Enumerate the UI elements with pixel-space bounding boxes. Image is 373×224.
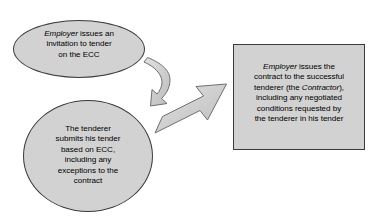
diagram-canvas: Employer issues aninvitation to tenderon… [0,0,373,224]
invitation-line-3: on the ECC [58,50,99,59]
contract-line-5: conditions requested by [257,104,341,113]
contract-line-2: contract to the successful [254,72,344,81]
employer-italic-term: Employer [44,29,78,38]
tenderer-line-5: exceptions to the [58,166,118,175]
invitation-line-1-rest: issues an [78,29,114,38]
invitation-line-2: invitation to tender [46,39,111,48]
contractor-italic-term: Contractor [302,83,339,92]
tenderer-line-2: submits his tender [56,134,121,143]
employer-italic-term-2: Employer [263,62,297,71]
contract-line-3-post: ), [339,83,344,92]
node-tenderer-submits-tender-label: The tenderersubmits his tenderbased on E… [28,124,148,186]
node-employer-issues-contract-label: Employer issues thecontract to the succe… [235,62,363,124]
contract-line-1-rest: issues the [297,62,335,71]
tenderer-line-4: including any [65,155,112,164]
contract-line-6: the tenderer in his tender [255,114,344,123]
tenderer-line-3: based on ECC, [61,145,115,154]
node-invitation-to-tender-label: Employer issues aninvitation to tenderon… [18,29,140,60]
contract-line-4: including any negotiated [256,93,342,102]
tenderer-line-1: The tenderer [65,124,111,133]
straight-arrow-up-right-icon [155,84,227,133]
curved-arrow-down-icon [144,58,170,107]
contract-line-3-pre: tenderer (the [254,83,302,92]
tenderer-line-6: contract [74,176,102,185]
